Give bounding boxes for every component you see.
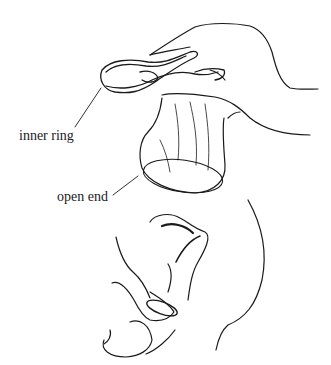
inner-ring-leader <box>75 88 101 127</box>
open-end-label: open end <box>57 190 108 204</box>
inner-ring-drawing <box>101 52 225 93</box>
hand-drawing <box>150 24 318 136</box>
inner-ring-label: inner ring <box>19 129 74 143</box>
insertion-drawing <box>103 200 264 357</box>
condom-sleeve-drawing <box>140 98 225 197</box>
illustration <box>0 0 331 365</box>
open-end-leader <box>113 176 138 195</box>
